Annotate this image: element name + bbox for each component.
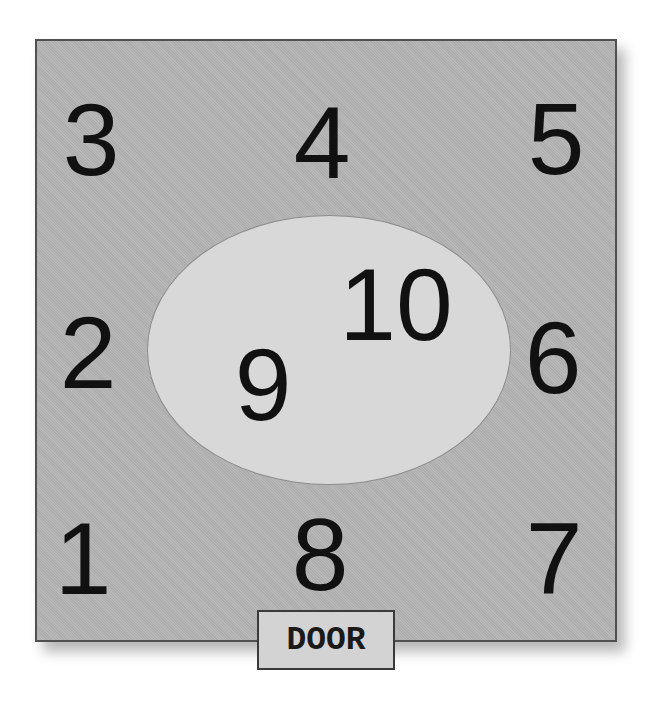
position-4: 4 (294, 92, 351, 194)
position-5: 5 (528, 88, 585, 190)
position-1: 1 (55, 508, 112, 610)
position-9: 9 (235, 334, 292, 436)
door-label: DOOR (257, 610, 395, 670)
center-area-ellipse (147, 215, 511, 485)
position-2: 2 (60, 302, 117, 404)
position-10: 10 (339, 254, 452, 356)
position-8: 8 (292, 504, 349, 606)
position-3: 3 (63, 89, 120, 191)
position-7: 7 (526, 508, 583, 610)
position-6: 6 (525, 307, 582, 409)
